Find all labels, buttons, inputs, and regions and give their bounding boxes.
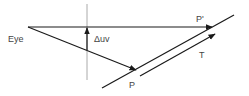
label-eye: Eye bbox=[8, 34, 24, 44]
parallax-diagram: Eye Δuv P' T P bbox=[0, 0, 249, 96]
surface-line bbox=[102, 15, 234, 88]
label-t: T bbox=[199, 50, 205, 60]
label-delta-uv: Δuv bbox=[94, 34, 110, 44]
ray-eye-to-p bbox=[28, 27, 136, 70]
label-p: P bbox=[129, 80, 135, 90]
label-p-prime: P' bbox=[196, 14, 204, 24]
